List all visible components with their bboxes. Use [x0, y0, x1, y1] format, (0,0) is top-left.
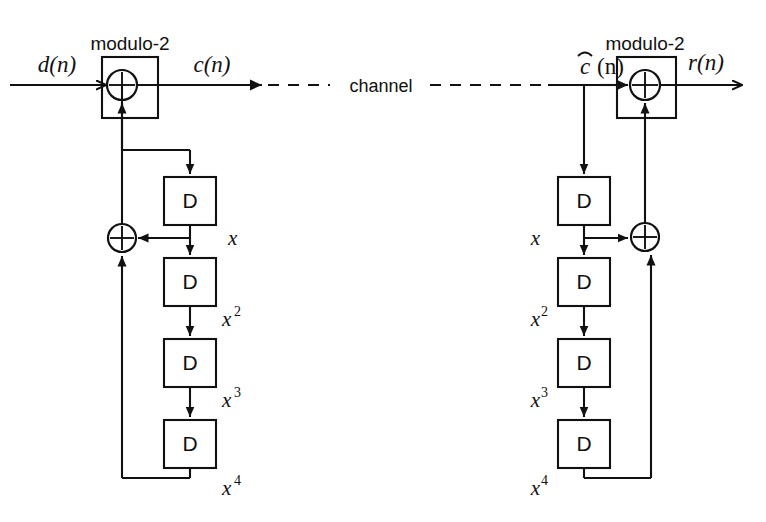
scrambler-tap-x3-label: x [221, 388, 232, 412]
channel-label: channel [349, 76, 412, 96]
diagram-canvas: modulo-2 d(n) c(n) D D D D x [0, 0, 766, 522]
input-label-dn: d(n) [38, 52, 76, 77]
descrambler-tap-x4-exp: 4 [541, 473, 548, 488]
scrambler-delay-4-label: D [182, 432, 197, 455]
descrambler-tap-x2-exp: 2 [541, 304, 548, 319]
label-chat-suffix: (n) [597, 54, 624, 79]
descrambler-delay-3-label: D [576, 351, 591, 374]
scrambler-tap-x2-label: x [221, 307, 232, 331]
label-chat-base: c [580, 54, 590, 79]
descrambler-tap-x3-label: x [530, 388, 541, 412]
scrambler-delay-2-label: D [182, 270, 197, 293]
scrambler-tap-x4-exp: 4 [234, 473, 241, 488]
descrambler-delay-4-label: D [576, 432, 591, 455]
scrambler-delay-3-label: D [182, 351, 197, 374]
descrambler-tap-x3-exp: 3 [541, 385, 548, 400]
block-diagram-figure: modulo-2 d(n) c(n) D D D D x [0, 0, 766, 522]
scrambler-delay-1-label: D [182, 189, 197, 212]
scrambler-tap-x-label: x [227, 226, 238, 250]
descrambler-tap-x2-label: x [530, 307, 541, 331]
label-cn: c(n) [193, 52, 230, 77]
descrambler-modulo2-label: modulo-2 [605, 33, 684, 54]
descrambler-tap-x-label: x [530, 226, 541, 250]
scrambler-tap-x3-exp: 3 [234, 385, 241, 400]
output-label-rn: r(n) [688, 50, 724, 75]
descrambler-tap-x4-label: x [530, 476, 541, 500]
scrambler-tap-x2-exp: 2 [234, 304, 241, 319]
scrambler-tap-x4-label: x [221, 476, 232, 500]
descrambler-delay-1-label: D [576, 189, 591, 212]
scrambler-modulo2-label: modulo-2 [90, 33, 169, 54]
descrambler-delay-2-label: D [576, 270, 591, 293]
